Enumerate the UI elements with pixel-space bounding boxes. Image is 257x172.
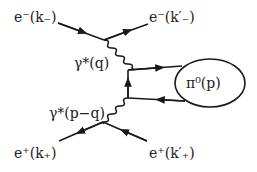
label-photon-bottom: γ*(p−q) (49, 106, 105, 120)
arrow-icon (104, 31, 128, 40)
label-pion: π⁰(p) (186, 76, 221, 90)
label-photon-top: γ*(q) (74, 56, 109, 70)
label-e-plus-out: e⁺(k′₊) (149, 146, 195, 160)
arrow-icon (124, 131, 147, 141)
feynman-diagram: e⁻(k₋) e⁻(k′₋) γ*(q) γ*(p−q) e⁺(k₊) e⁺(k… (0, 0, 257, 172)
arrow-icon (160, 100, 185, 101)
photon-bottom-wavy (103, 98, 128, 124)
label-e-minus-in: e⁻(k₋) (14, 10, 56, 24)
label-e-minus-out: e⁻(k′₋) (149, 10, 195, 24)
arrow-icon (58, 23, 83, 32)
arrow-icon (80, 122, 103, 132)
label-e-plus-in: e⁺(k₊) (14, 146, 56, 160)
